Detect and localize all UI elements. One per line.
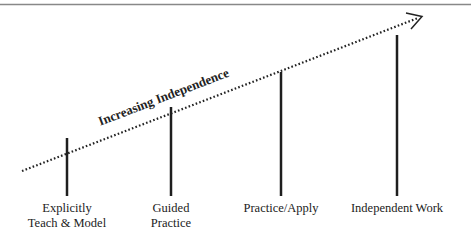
stage-label-3-line1: Practice/Apply: [221, 201, 341, 216]
stage-label-4-line1: Independent Work: [337, 201, 457, 216]
gradual-release-diagram: Increasing Independence Explicitly Teach…: [0, 0, 471, 232]
stage-label-4: Independent Work: [337, 201, 457, 216]
stage-label-1-line2: Teach & Model: [17, 216, 117, 231]
stage-label-2-line1: Guided: [121, 201, 221, 216]
independence-arrow-shaft: [22, 18, 418, 171]
stage-label-2-line2: Practice: [121, 216, 221, 231]
stage-label-1: Explicitly Teach & Model: [17, 201, 117, 231]
diagram-graphics: Increasing Independence: [0, 0, 471, 232]
stage-label-3: Practice/Apply: [221, 201, 341, 216]
arrow-label: Increasing Independence: [96, 65, 231, 129]
stage-label-1-line1: Explicitly: [17, 201, 117, 216]
stage-label-2: Guided Practice: [121, 201, 221, 231]
